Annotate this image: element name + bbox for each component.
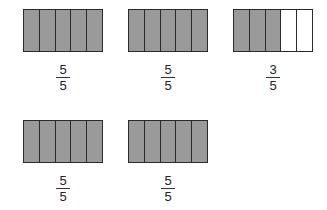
- fraction-denominator: 5: [263, 80, 283, 92]
- fraction-label-1: 5 5: [53, 64, 73, 92]
- fraction-numerator: 5: [158, 64, 178, 76]
- fraction-bar-model-5: [128, 120, 208, 163]
- fraction-bar-model-2: [128, 9, 208, 52]
- shaded-part: [87, 10, 102, 51]
- shaded-part: [56, 10, 72, 51]
- fraction-label-5: 5 5: [158, 175, 178, 203]
- fraction-bar-model-1: [23, 9, 103, 52]
- fraction-numerator: 3: [263, 64, 283, 76]
- shaded-part: [192, 121, 207, 162]
- shaded-part: [40, 121, 56, 162]
- shaded-part: [176, 10, 192, 51]
- unshaded-part: [297, 10, 312, 51]
- shaded-part: [234, 10, 250, 51]
- shaded-part: [266, 10, 282, 51]
- shaded-part: [87, 121, 102, 162]
- fraction-numerator: 5: [158, 175, 178, 187]
- shaded-part: [129, 121, 145, 162]
- shaded-part: [145, 10, 161, 51]
- fraction-denominator: 5: [158, 191, 178, 203]
- shaded-part: [176, 121, 192, 162]
- shaded-part: [192, 10, 207, 51]
- unshaded-part: [281, 10, 297, 51]
- shaded-part: [71, 10, 87, 51]
- fraction-label-2: 5 5: [158, 64, 178, 92]
- fraction-denominator: 5: [53, 80, 73, 92]
- shaded-part: [24, 121, 40, 162]
- fraction-label-4: 5 5: [53, 175, 73, 203]
- fraction-denominator: 5: [158, 80, 178, 92]
- fraction-numerator: 5: [53, 64, 73, 76]
- shaded-part: [71, 121, 87, 162]
- shaded-part: [250, 10, 266, 51]
- shaded-part: [145, 121, 161, 162]
- fraction-bar-model-4: [23, 120, 103, 163]
- fraction-label-3: 3 5: [263, 64, 283, 92]
- fraction-bar-model-3: [233, 9, 313, 52]
- fraction-denominator: 5: [53, 191, 73, 203]
- fraction-numerator: 5: [53, 175, 73, 187]
- shaded-part: [56, 121, 72, 162]
- shaded-part: [161, 121, 177, 162]
- shaded-part: [129, 10, 145, 51]
- shaded-part: [161, 10, 177, 51]
- shaded-part: [24, 10, 40, 51]
- shaded-part: [40, 10, 56, 51]
